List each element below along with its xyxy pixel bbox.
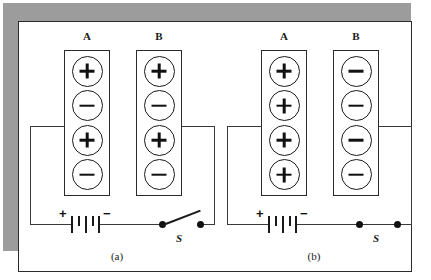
switch-contact-right[interactable] [197, 221, 204, 228]
battery-plate-long-2 [85, 216, 87, 233]
battery-plate-short-2 [289, 216, 291, 226]
wire-right-top [182, 126, 215, 127]
battery-plate-short-1 [275, 216, 277, 226]
battery-plate-long-3 [295, 216, 297, 233]
charge-b-1 [144, 56, 175, 87]
battery-plate-long-1 [268, 216, 270, 233]
circuit-panel-a: A B [19, 22, 216, 273]
charge-b-2 [341, 90, 372, 121]
charge-b-2 [144, 90, 175, 121]
charge-a-4 [72, 159, 103, 190]
panel-caption-a: (a) [87, 250, 147, 262]
switch-label: S [373, 232, 379, 244]
wire-right-top [379, 126, 412, 127]
circuit-panel-b: A B [216, 22, 413, 273]
battery-plate-long-3 [98, 216, 100, 233]
battery-plate-long-2 [282, 216, 284, 233]
wire-left-vertical [30, 126, 31, 225]
charge-a-3 [269, 125, 300, 156]
wire-right-vertical [411, 126, 412, 225]
switch-contact-left[interactable] [356, 221, 363, 228]
battery-negative-sign: − [103, 207, 111, 220]
charge-a-1 [72, 56, 103, 87]
charge-b-3 [144, 125, 175, 156]
charge-a-1 [269, 56, 300, 87]
plate-b [333, 50, 379, 196]
switch-label: S [176, 232, 182, 244]
charge-b-1 [341, 56, 372, 87]
plate-a [261, 50, 307, 196]
battery-plate-short-2 [92, 216, 94, 226]
panel-caption-b: (b) [284, 250, 344, 262]
battery-positive-sign: + [59, 207, 67, 220]
charge-b-4 [144, 159, 175, 190]
wire-left-top [227, 126, 262, 127]
wire-left-top [30, 126, 65, 127]
battery-negative-sign: − [300, 207, 308, 220]
battery-plate-short-1 [78, 216, 80, 226]
wire-bottom-left [227, 224, 268, 225]
plate-b [136, 50, 182, 196]
charge-b-3 [341, 125, 372, 156]
charge-a-2 [72, 90, 103, 121]
plate-label-b: B [333, 30, 379, 42]
battery-positive-sign: + [256, 207, 264, 220]
switch-lever[interactable] [163, 210, 201, 226]
plate-label-b: B [136, 30, 182, 42]
charge-a-3 [72, 125, 103, 156]
wire-left-vertical [227, 126, 228, 225]
switch-contact-right[interactable] [394, 221, 401, 228]
figure-root: A B [0, 0, 431, 280]
charge-a-2 [269, 90, 300, 121]
plate-label-a: A [64, 30, 110, 42]
plate-label-a: A [261, 30, 307, 42]
battery-plate-long-1 [71, 216, 73, 233]
wire-bottom-middle [99, 224, 162, 225]
wire-bottom-left [30, 224, 71, 225]
charge-b-4 [341, 159, 372, 190]
plate-a [64, 50, 110, 196]
charge-a-4 [269, 159, 300, 190]
figure-card: A B [18, 21, 412, 272]
